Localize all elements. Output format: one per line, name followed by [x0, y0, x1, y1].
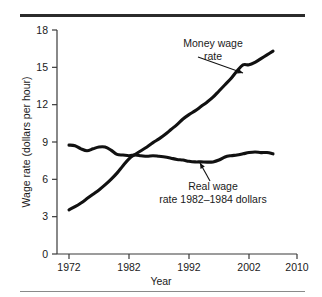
- y-tick-label: 18: [36, 24, 48, 36]
- x-tick-label: 2010: [285, 261, 309, 273]
- bottom-rule: [20, 291, 305, 292]
- x-tick-label: 1982: [117, 261, 141, 273]
- x-tick-label: 1992: [177, 261, 201, 273]
- y-axis-ticks: 0369121518: [36, 24, 57, 260]
- chart-figure: 0369121518 19721982199220022010 Money wa…: [0, 0, 322, 297]
- y-tick-label: 15: [36, 61, 48, 73]
- y-tick-label: 0: [42, 248, 48, 260]
- x-axis-title: Year: [150, 275, 172, 287]
- wage-rate-chart: 0369121518 19721982199220022010 Money wa…: [0, 0, 322, 297]
- real-wage-annotation: Real wagerate 1982–1984 dollars: [159, 180, 266, 205]
- annotation-line: Money wage: [183, 37, 243, 49]
- y-tick-label: 3: [42, 210, 48, 222]
- y-tick-label: 12: [36, 98, 48, 110]
- annotation-line: Real wage: [188, 180, 238, 192]
- chart-annotations-group: Money wagerateReal wagerate 1982–1984 do…: [159, 37, 266, 205]
- y-tick-label: 6: [42, 173, 48, 185]
- x-tick-label: 2002: [237, 261, 261, 273]
- y-tick-label: 9: [42, 136, 48, 148]
- annotation-line: rate 1982–1984 dollars: [159, 193, 266, 205]
- y-axis-title: Wage rate (dollars per hour): [20, 77, 32, 208]
- chart-series-group: [69, 51, 273, 210]
- x-tick-label: 1972: [57, 261, 81, 273]
- real-wage-rate-line: [69, 145, 273, 162]
- x-axis-ticks: 19721982199220022010: [57, 254, 309, 273]
- money-wage-annotation: Money wagerate: [183, 37, 243, 62]
- money-wage-rate-line: [69, 51, 273, 210]
